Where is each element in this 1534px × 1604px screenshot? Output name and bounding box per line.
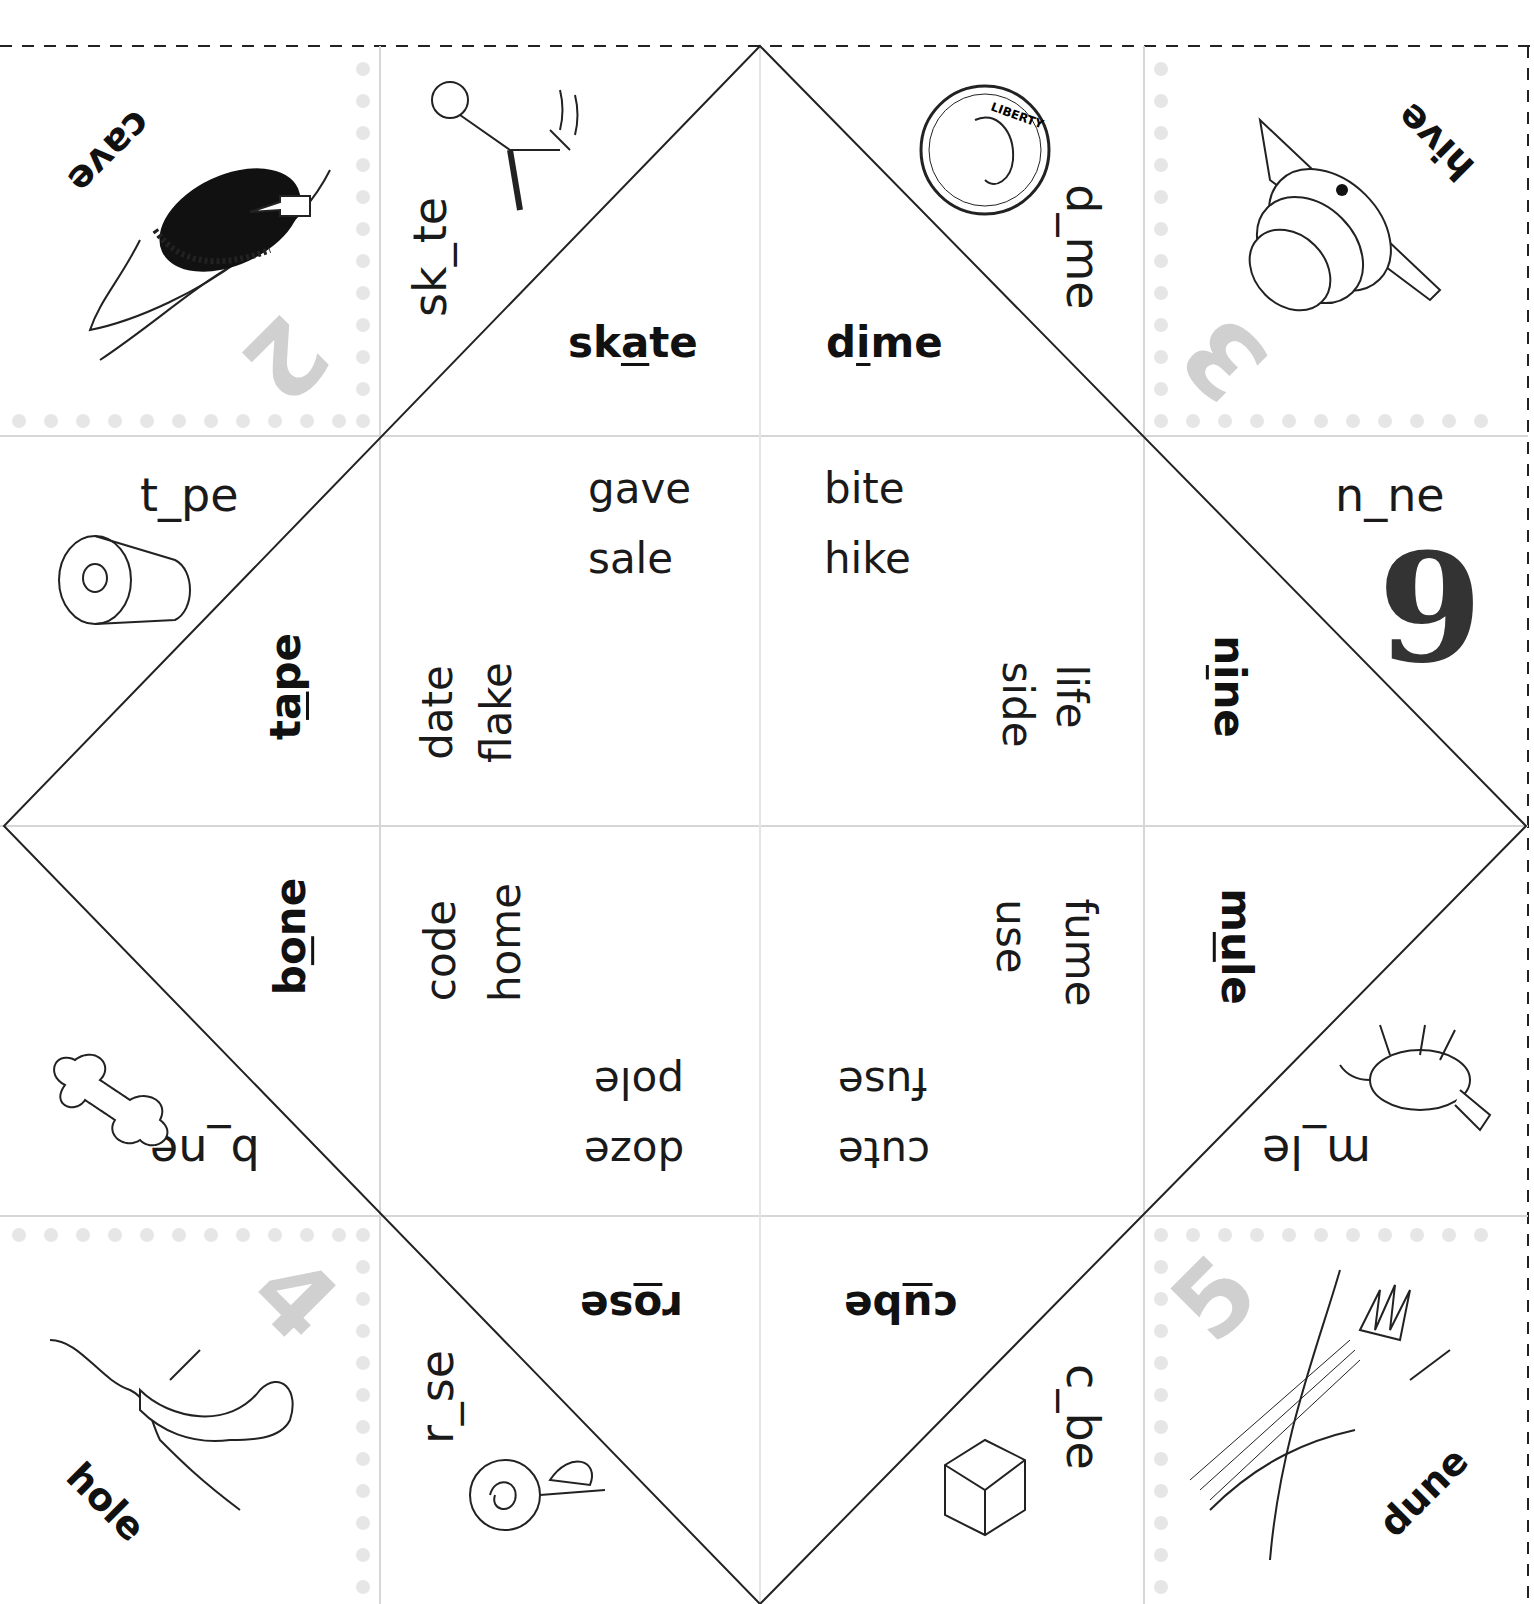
inner-word-hike: hike	[824, 534, 911, 583]
inner-word-bite: bite	[824, 464, 905, 513]
inner-word-sale: sale	[588, 534, 673, 583]
inner-word-fuse: fuse	[838, 1058, 927, 1107]
cave-illustration	[80, 130, 340, 370]
mule-illustration	[1330, 1020, 1510, 1150]
sand-dune-illustration	[1180, 1260, 1480, 1560]
inner-word-side: side	[993, 661, 1042, 747]
dime-coin-illustration: LIBERTY	[915, 80, 1055, 220]
fill-in-t_pe: t_pe	[140, 468, 239, 522]
inner-word-home: home	[481, 883, 530, 1002]
number-9-picture: 9	[1378, 520, 1482, 696]
inner-word-life: life	[1047, 665, 1096, 729]
answer-word-rose: rose	[580, 1282, 683, 1331]
fortune-teller-sheet: cave 2 hive 3 hole 4 dune 5	[0, 0, 1534, 1604]
inner-word-fume: fume	[1056, 898, 1105, 1006]
inner-word-gave: gave	[588, 464, 691, 513]
answer-word-nine: nine	[1205, 635, 1254, 738]
beehive-illustration	[1230, 110, 1460, 340]
inner-word-pole: pole	[594, 1058, 684, 1107]
answer-word-cube: cube	[844, 1282, 957, 1331]
answer-word-dime: dime	[826, 318, 943, 367]
answer-word-skate: skate	[568, 318, 698, 367]
rose-illustration	[460, 1440, 610, 1560]
answer-word-tape: tape	[261, 633, 310, 740]
fill-in-n_ne: n_ne	[1335, 468, 1445, 522]
inner-word-flake: flake	[472, 662, 521, 763]
worm-hole-illustration	[40, 1330, 300, 1530]
sugar-cube-illustration	[935, 1435, 1035, 1545]
bone-illustration	[45, 1045, 185, 1155]
fill-in-r_se: r_se	[410, 1350, 464, 1444]
skater-illustration	[410, 70, 590, 230]
inner-word-cute: cute	[838, 1128, 930, 1177]
inner-word-doze: doze	[584, 1128, 684, 1177]
fill-in-c_be: c_be	[1056, 1364, 1110, 1470]
inner-word-code: code	[416, 900, 465, 1001]
answer-word-bone: bone	[266, 878, 315, 995]
tape-dispenser-illustration	[55, 530, 205, 630]
fill-in-d_me: d_me	[1056, 184, 1110, 309]
inner-word-date: date	[413, 665, 462, 760]
answer-word-mule: mule	[1212, 888, 1261, 1005]
inner-word-use: use	[987, 899, 1036, 973]
